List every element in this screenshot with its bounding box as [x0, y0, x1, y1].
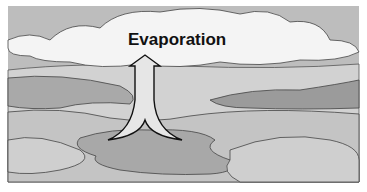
evaporation-diagram: Evaporation: [0, 0, 367, 192]
landscape-illustration: [0, 0, 367, 192]
evaporation-label: Evaporation: [128, 30, 226, 50]
